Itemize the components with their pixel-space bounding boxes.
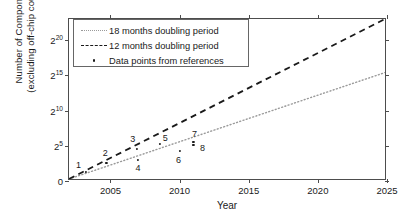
x-tick-mark <box>110 179 111 183</box>
y-tick-mark <box>65 181 69 182</box>
y-tick-mark-right <box>385 75 389 76</box>
legend-label-12-months: 12 months doubling period <box>109 41 219 51</box>
x-tick-mark <box>318 179 319 183</box>
legend-row-data-points: Data points from references <box>79 53 243 68</box>
marker-key <box>79 53 109 68</box>
y-axis-title: Number of Components (excluding off-chip… <box>10 0 40 120</box>
dotted-line-key <box>79 23 109 38</box>
x-tick-mark <box>249 179 250 183</box>
data-point-label: 2 <box>103 148 108 158</box>
y-tick-label: 220 <box>3 34 63 46</box>
x-tick-mark <box>387 179 388 183</box>
x-tick-label: 2010 <box>169 185 190 196</box>
x-tick-mark-top <box>387 15 388 19</box>
data-point-label: 8 <box>200 143 205 153</box>
x-tick-label: 2020 <box>307 185 328 196</box>
dashed-line-key <box>79 38 109 53</box>
legend-row-18-months: 18 months doubling period <box>79 23 243 38</box>
x-tick-label: 2005 <box>100 185 121 196</box>
y-tick-label: 25 <box>3 140 63 152</box>
data-point-label: 6 <box>176 155 181 165</box>
y-tick-label: 215 <box>3 69 63 81</box>
data-point-label: 7 <box>192 129 197 139</box>
legend-label-data-points: Data points from references <box>109 56 224 66</box>
plot-frame: 025210215220 20052010201520202025 123456… <box>68 18 386 180</box>
y-tick-label: 210 <box>3 104 63 116</box>
data-point-label: 4 <box>136 163 141 173</box>
y-tick-mark-right <box>385 111 389 112</box>
data-point-label: 5 <box>163 133 168 143</box>
legend: 18 months doubling period 12 months doub… <box>73 19 249 67</box>
y-tick-mark-right <box>385 40 389 41</box>
x-tick-label: 2015 <box>238 185 259 196</box>
x-tick-label: 2025 <box>376 185 397 196</box>
x-axis-title: Year <box>68 200 386 211</box>
data-point-label: 3 <box>130 134 135 144</box>
legend-row-12-months: 12 months doubling period <box>79 38 243 53</box>
data-point-label: 1 <box>76 160 81 170</box>
x-tick-mark <box>180 179 181 183</box>
y-tick-mark-right <box>385 146 389 147</box>
series-line-18-months <box>69 73 385 179</box>
y-tick-label: 0 <box>3 176 63 187</box>
legend-label-18-months: 18 months doubling period <box>109 26 219 36</box>
